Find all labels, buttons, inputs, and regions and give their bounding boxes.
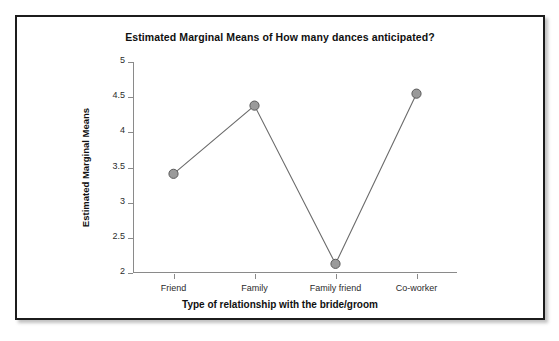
series-line (174, 94, 417, 264)
x-tick-label: Co-worker (396, 283, 438, 293)
x-tick-mark (174, 274, 175, 279)
y-tick-label: 5 (120, 55, 125, 65)
x-tick-mark (255, 274, 256, 279)
data-point-marker (412, 89, 421, 98)
x-tick-label: Friend (161, 283, 187, 293)
series-markers (169, 89, 421, 268)
chart-title: Estimated Marginal Means of How many dan… (17, 31, 543, 43)
x-tick-mark (336, 274, 337, 279)
data-series (133, 62, 457, 273)
y-tick-label: 3.5 (112, 161, 125, 171)
y-tick-label: 3 (120, 196, 125, 206)
y-tick-label: 4.5 (112, 90, 125, 100)
chart-figure-frame: Estimated Marginal Means of How many dan… (15, 15, 545, 320)
y-axis-title: Estimated Marginal Means (80, 62, 94, 273)
plot-area: 22.533.544.55 FriendFamilyFamily friendC… (133, 62, 457, 273)
x-tick-label: Family friend (310, 283, 362, 293)
y-tick-label: 2.5 (112, 231, 125, 241)
x-tick-label: Family (241, 283, 268, 293)
y-tick-label: 2 (120, 266, 125, 276)
data-point-marker (331, 259, 340, 268)
data-point-marker (250, 101, 259, 110)
x-axis-title: Type of relationship with the bride/groo… (17, 299, 543, 310)
data-point-marker (169, 169, 178, 178)
y-tick-mark (128, 273, 133, 274)
x-tick-mark (417, 274, 418, 279)
y-tick-label: 4 (120, 125, 125, 135)
